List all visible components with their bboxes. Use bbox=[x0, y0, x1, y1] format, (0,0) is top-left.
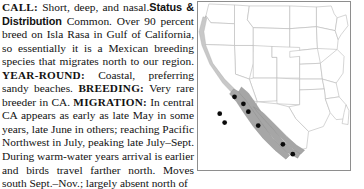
range-map bbox=[196, 0, 364, 189]
account-paragraph: CALL: Short, deep, and nasal.Status & Di… bbox=[2, 1, 194, 189]
migration-heading: MIGRATION: bbox=[73, 96, 147, 108]
colony-dot bbox=[217, 111, 222, 116]
range-map-frame bbox=[197, 1, 351, 171]
colony-dot bbox=[232, 94, 237, 99]
colony-dot bbox=[241, 101, 246, 106]
colony-dot bbox=[222, 120, 227, 125]
breeding-heading: BREEDING: bbox=[78, 82, 144, 94]
colony-dot bbox=[246, 109, 251, 114]
call-heading: CALL: bbox=[2, 1, 38, 13]
colony-dot bbox=[256, 123, 261, 128]
colony-dot bbox=[281, 142, 286, 147]
colony-dot bbox=[290, 152, 295, 157]
species-account-text-column: CALL: Short, deep, and nasal.Status & Di… bbox=[0, 0, 196, 189]
field-guide-page: CALL: Short, deep, and nasal.Status & Di… bbox=[0, 0, 364, 189]
range-map-graphic bbox=[198, 2, 350, 170]
year-round-heading: YEAR-ROUND: bbox=[2, 69, 85, 81]
migration-text: In central CA appears as early as late M… bbox=[2, 96, 194, 189]
call-text: Short, deep, and nasal. bbox=[38, 1, 149, 13]
